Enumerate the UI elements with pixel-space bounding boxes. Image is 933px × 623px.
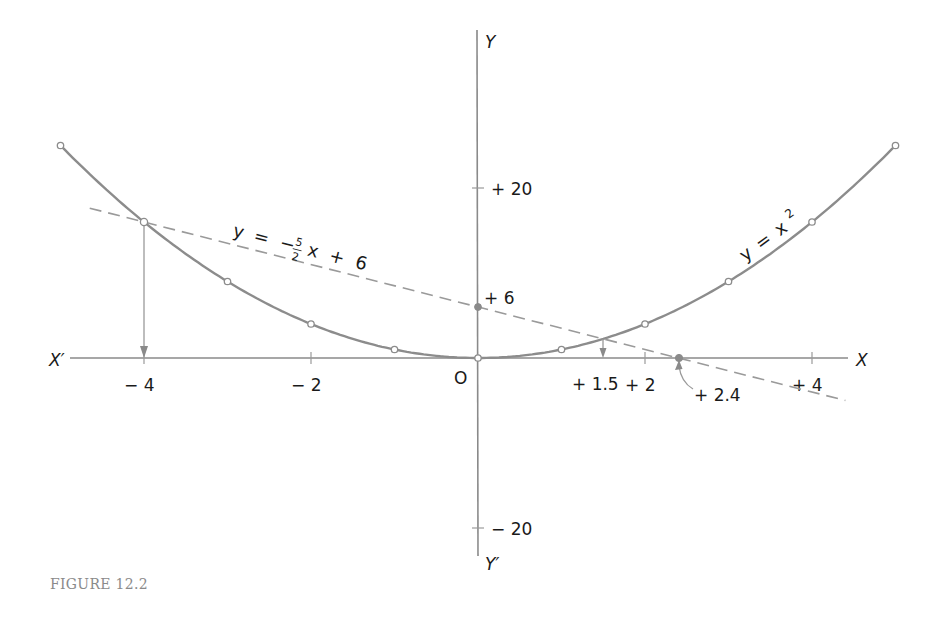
eq-exponent: 2 — [782, 206, 796, 222]
intersection-x-label: + 1.5 — [572, 374, 619, 394]
y-axis-negative-label: Y′ — [485, 554, 499, 574]
svg-text:x + 6: x + 6 — [306, 239, 370, 275]
drop-arrows — [140, 222, 693, 389]
x-intercept-label: + 2.4 — [694, 385, 741, 405]
x-tick-label: + 2 — [625, 375, 655, 395]
x-axis-negative-label: X′ — [48, 350, 65, 370]
x-intercept-point — [675, 354, 682, 361]
eq-x: x — [770, 216, 791, 239]
intersection-point-left — [140, 218, 147, 225]
y-intercept-label: + 6 — [484, 288, 514, 308]
line-equation-label: y = − 5 2 x + 6 — [229, 220, 369, 282]
parabola-point — [809, 219, 815, 225]
arrow-head-icon — [600, 348, 607, 358]
eq-equals: = — [751, 228, 776, 254]
origin-label: O — [454, 368, 467, 388]
parabola-point — [892, 142, 898, 148]
parabola-point — [391, 346, 397, 352]
y-tick-label: − 20 — [491, 519, 532, 539]
arrow-head-icon — [140, 346, 148, 358]
eq-constant: 6 — [353, 251, 369, 274]
axes — [70, 30, 848, 556]
parabola-point — [57, 142, 63, 148]
y-tick-label: + 20 — [491, 179, 532, 199]
eq-y: y — [735, 242, 756, 265]
eq-equals: = — [252, 225, 272, 249]
y-axis-label: Y — [485, 32, 497, 52]
figure-caption: FIGURE 12.2 — [50, 576, 148, 592]
eq-x: x — [306, 239, 322, 262]
eq-y: y — [231, 220, 247, 243]
y-intercept-point — [475, 304, 482, 311]
parabola-point — [558, 346, 564, 352]
y-axis — [477, 30, 478, 556]
curved-arrow-x-2-4 — [679, 366, 693, 389]
line-y-neg-5-2-x-plus-6 — [90, 208, 846, 400]
figure-12-2-plot: X X′ Y Y′ O − 4− 2+ 2+ 4+ 20− 20 + 6 + 1… — [0, 0, 933, 623]
parabola-point — [725, 278, 731, 284]
x-tick-label: − 2 — [291, 375, 321, 395]
origin-point — [475, 355, 481, 361]
svg-text:y = −: y = − — [231, 220, 298, 256]
parabola-point — [224, 278, 230, 284]
parabola-point — [642, 321, 648, 327]
x-tick-label: − 4 — [124, 375, 154, 395]
x-axis-label: X — [855, 350, 868, 370]
parabola-point — [308, 321, 314, 327]
eq-plus: + — [327, 244, 347, 268]
x-tick-label: + 4 — [792, 375, 822, 395]
